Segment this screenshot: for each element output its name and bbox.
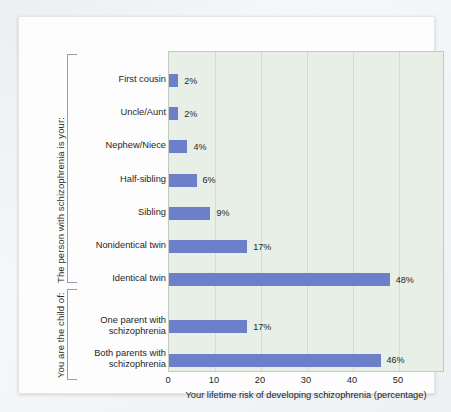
bar-value-label: 9% [216,208,229,218]
bar [169,320,247,333]
x-tick-label: 50 [393,375,403,385]
gridline [353,52,354,371]
bar-value-label: 17% [253,242,271,252]
bar [169,107,178,120]
category-label: Nonidentical twin [81,240,166,251]
x-tick-label: 10 [209,375,219,385]
group-bracket-parents [67,289,77,380]
group-caption-relatives: The person with schizophrenia is your: [55,117,66,283]
group-bracket-relatives [67,54,77,283]
bar-value-label: 46% [387,355,405,365]
category-label: One parent withschizophrenia [81,315,166,336]
category-label: Sibling [81,207,166,218]
bar [169,174,197,187]
x-tick-label: 30 [301,375,311,385]
category-label: Uncle/Aunt [81,107,166,118]
category-label: Nephew/Niece [81,140,166,151]
plot-area: 2%2%4%6%9%17%48%17%46% [168,51,444,372]
bar-value-label: 2% [184,76,197,86]
bar-value-label: 2% [184,109,197,119]
category-axis-labels: First cousinUncle/AuntNephew/NieceHalf-s… [81,51,166,381]
bar [169,140,187,153]
group-caption-parents: You are the child of: [55,292,66,378]
bar-value-label: 6% [203,175,216,185]
bar [169,207,210,220]
bar-value-label: 4% [193,142,206,152]
x-tick-label: 0 [165,375,170,385]
bar [169,240,247,253]
x-tick-label: 20 [255,375,265,385]
bar [169,273,390,286]
bar-value-label: 17% [253,322,271,332]
x-tick-label: 40 [347,375,357,385]
category-label: Half-sibling [81,174,166,185]
category-label: First cousin [81,74,166,85]
chart-figure-panel: The person with schizophrenia is your: Y… [18,16,435,394]
category-label: Both parents withschizophrenia [81,348,166,369]
chart-page: The person with schizophrenia is your: Y… [0,0,451,412]
bar-value-label: 48% [396,275,414,285]
gridline [399,52,400,371]
x-axis-title: Your lifetime risk of developing schizop… [168,390,444,400]
category-label: Identical twin [81,273,166,284]
bar [169,354,381,367]
gridline [307,52,308,371]
bar [169,74,178,87]
